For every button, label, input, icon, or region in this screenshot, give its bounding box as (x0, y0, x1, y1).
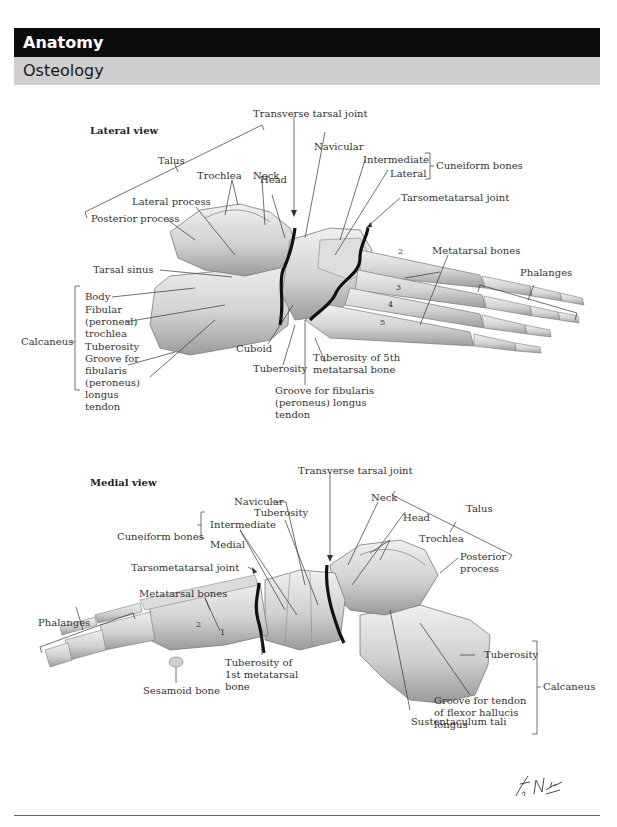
medial-view-title: Medial view (90, 477, 157, 489)
label-metatarsal-bones: Metatarsal bones (432, 245, 520, 257)
label-fibular-trochlea: Fibular (peroneal) trochlea (85, 304, 135, 340)
metatarsal-number: 2 (398, 247, 403, 256)
label-groove-fibularis-cuboid: Groove for fibularis (peroneus) longus t… (275, 385, 400, 421)
section-header: Anatomy (14, 28, 600, 57)
label-trochlea-medial: Trochlea (419, 533, 464, 545)
label-cuboid: Cuboid (236, 343, 272, 355)
label-tuberosity-calcaneus-medial: Tuberosity (484, 649, 538, 661)
label-tuberosity-calcaneus: Tuberosity (85, 341, 139, 353)
label-metatarsal-bones-medial: Metatarsal bones (139, 588, 227, 600)
label-head-medial: Head (403, 512, 430, 524)
lateral-view-title: Lateral view (90, 125, 158, 137)
label-tarsometatarsal-joint: Tarsometatarsal joint (401, 192, 509, 204)
label-transverse-tarsal-joint-medial: Transverse tarsal joint (298, 465, 413, 477)
label-lateral-cuneiform: Lateral (390, 168, 426, 180)
label-navicular-tuberosity: Tuberosity (254, 507, 308, 519)
svg-text:3: 3 (396, 283, 401, 292)
subsection-header: Osteology (14, 57, 600, 85)
label-tuberosity-cuboid: Tuberosity (253, 363, 307, 375)
label-neck-medial: Neck (371, 492, 397, 504)
label-talus-medial: Talus (466, 503, 493, 515)
label-posterior-process-medial: Posterior process (460, 551, 510, 575)
label-groove-fibularis-calcaneus: Groove for fibularis (peroneus) longus t… (85, 353, 153, 413)
svg-text:5: 5 (380, 318, 385, 327)
label-cuneiform-bones: Cuneiform bones (436, 160, 523, 172)
svg-text:4: 4 (388, 300, 393, 309)
label-trochlea: Trochlea (197, 170, 242, 182)
label-cuneiform-bones-medial: Cuneiform bones (117, 531, 204, 543)
svg-text:1: 1 (220, 628, 225, 637)
label-transverse-tarsal-joint: Transverse tarsal joint (253, 108, 368, 120)
label-talus: Talus (158, 155, 185, 167)
label-body: Body (85, 291, 110, 303)
label-lateral-process: Lateral process (132, 196, 211, 208)
label-head: Head (260, 174, 287, 186)
label-tuberosity-1st-metatarsal: Tuberosity of 1st metatarsal bone (225, 657, 310, 693)
label-posterior-process: Posterior process (91, 213, 179, 225)
medial-view-figure: 2 1 (0, 455, 617, 775)
label-intermediate-cuneiform-medial: Intermediate (210, 519, 276, 531)
label-sesamoid-bone: Sesamoid bone (143, 685, 220, 697)
label-calcaneus-medial: Calcaneus (543, 681, 595, 693)
label-phalanges-medial: Phalanges (38, 617, 90, 629)
netter-signature (510, 770, 570, 800)
label-navicular: Navicular (314, 141, 364, 153)
label-sustentaculum-tali: Sustentaculum tali (411, 716, 507, 728)
svg-text:2: 2 (196, 620, 201, 629)
lateral-view-figure: 2 3 4 5 (0, 100, 617, 430)
label-tuberosity-5th-metatarsal: Tuberosity of 5th metatarsal bone (313, 352, 408, 376)
label-calcaneus: Calcaneus (21, 336, 73, 348)
label-tarsometatarsal-joint-medial: Tarsometatarsal joint (131, 562, 239, 574)
label-medial-cuneiform: Medial (210, 539, 245, 551)
label-tarsal-sinus: Tarsal sinus (93, 264, 153, 276)
footer-divider (14, 815, 600, 816)
label-intermediate-cuneiform: Intermediate (363, 154, 429, 166)
label-phalanges: Phalanges (520, 267, 572, 279)
